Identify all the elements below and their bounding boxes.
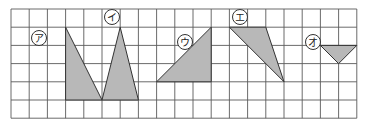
label-text: エ xyxy=(235,12,245,23)
triangle-grid-diagram: アイウエオ xyxy=(0,0,366,128)
grid-canvas: アイウエオ xyxy=(0,0,366,128)
label-text: イ xyxy=(107,12,117,23)
label-text: ア xyxy=(34,33,44,44)
shape-label-u: ウ xyxy=(178,35,193,50)
shape-label-a: ア xyxy=(32,31,47,46)
labels-layer: アイウエオ xyxy=(32,10,321,50)
label-text: ウ xyxy=(180,37,190,48)
shape-label-i: イ xyxy=(105,10,120,25)
triangle-o xyxy=(320,45,356,63)
shape-label-o: オ xyxy=(306,35,321,50)
shape-label-e: エ xyxy=(233,10,248,25)
triangle-e xyxy=(229,27,284,82)
label-text: オ xyxy=(308,37,318,48)
